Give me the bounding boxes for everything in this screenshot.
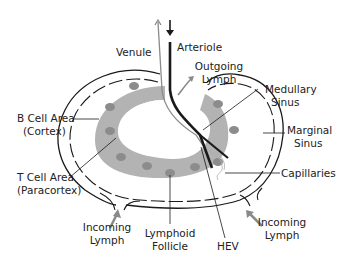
label-outgoing-lymph-1: Outgoing [194,60,244,73]
label-incoming-lymph-right-1: Incoming [255,216,309,229]
label-marginal-sinus-1: Marginal [287,124,332,137]
label-capillaries: Capillaries [281,167,336,180]
label-lymphoid-follicle-2: Follicle [140,240,200,253]
label-incoming-lymph-left-2: Lymph [80,234,134,247]
label-b-cell-area-2: (Cortex) [23,125,66,138]
label-medullary-sinus-2: Sinus [271,96,299,109]
label-marginal-sinus-2: Sinus [294,137,322,150]
label-outgoing-lymph-2: Lymph [194,73,244,86]
label-b-cell-area-1: B Cell Area [17,112,75,125]
label-arteriole: Arteriole [177,41,222,54]
label-incoming-lymph-right-2: Lymph [255,229,309,242]
label-venule: Venule [116,46,152,59]
label-t-cell-area-1: T Cell Area [17,171,74,184]
label-hev: HEV [217,240,239,253]
label-incoming-lymph-left-1: Incoming [80,221,134,234]
label-lymphoid-follicle-1: Lymphoid [140,227,200,240]
label-t-cell-area-2: (Paracortex) [17,184,81,197]
label-medullary-sinus-1: Medullary [265,83,317,96]
